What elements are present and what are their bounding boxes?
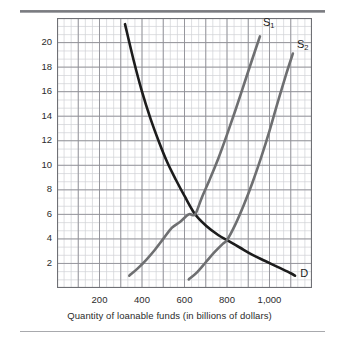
y-tick-label: 10 [12, 159, 52, 170]
x-tick-label: 600 [162, 294, 208, 305]
y-tick-label: 20 [12, 36, 52, 47]
chart-canvas [57, 18, 312, 288]
supply-demand-figure: 2468101214161820 2004006008001,000 S1S2D… [0, 0, 339, 343]
curve-label-S2: S2 [297, 38, 309, 52]
y-tick-label: 18 [12, 61, 52, 72]
plot-area [57, 18, 312, 288]
top-divider-rule [20, 10, 325, 13]
x-tick-label: 400 [119, 294, 165, 305]
x-tick-label: 200 [77, 294, 123, 305]
x-tick-label: 800 [204, 294, 250, 305]
y-tick-label: 14 [12, 110, 52, 121]
y-tick-label: 2 [12, 257, 52, 268]
x-axis-title: Quantity of loanable funds (in billions … [0, 310, 339, 321]
y-tick-label: 4 [12, 232, 52, 243]
grid-major-lines [57, 18, 312, 288]
curve-label-D: D [300, 267, 308, 279]
bottom-divider-rule [20, 331, 325, 332]
y-tick-label: 8 [12, 183, 52, 194]
y-tick-label: 12 [12, 134, 52, 145]
y-tick-label: 16 [12, 85, 52, 96]
curve-label-S1: S1 [263, 16, 275, 30]
x-tick-label: 1,000 [247, 294, 293, 305]
y-tick-label: 6 [12, 208, 52, 219]
